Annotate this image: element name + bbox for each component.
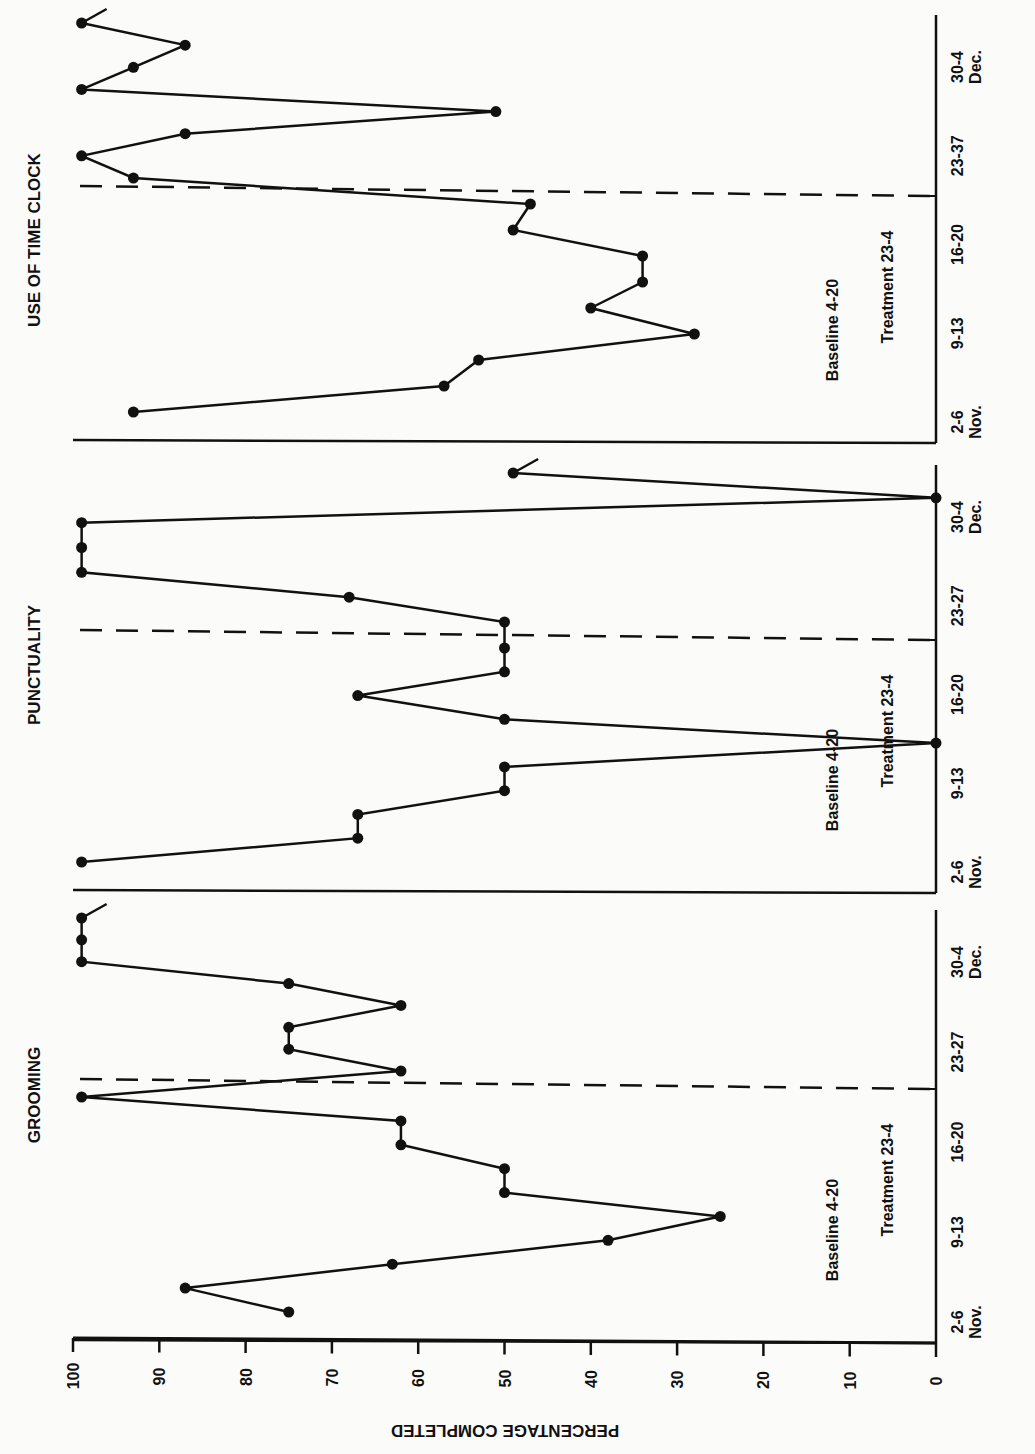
baseline-phase-label: Baseline 4-20 (824, 729, 841, 831)
multi-panel-line-chart: USE OF TIME CLOCK PUNCTUALITY GROOMING 1… (0, 0, 1035, 1454)
panel-grooming: 2-6Nov.9-1316-2023-2730-4Dec.Baseline 4-… (73, 904, 984, 1343)
value-tick-label: 60 (410, 1369, 427, 1387)
time-label-month: Nov. (967, 405, 984, 438)
data-point-marker (395, 1066, 406, 1077)
time-label: 9-13 (949, 1216, 966, 1248)
time-label-month: Nov. (967, 855, 984, 888)
data-point-marker (76, 542, 87, 553)
data-point-marker (283, 1307, 294, 1318)
value-tick-label: 10 (842, 1372, 859, 1390)
data-point-marker (128, 62, 139, 73)
time-label: 30-4 (949, 501, 966, 533)
time-label: 9-13 (949, 767, 966, 799)
data-point-marker (499, 1163, 510, 1174)
data-point-marker (76, 857, 87, 868)
value-tick-label: 70 (324, 1369, 341, 1387)
value-tick-label: 30 (669, 1371, 686, 1389)
treatment-phase-label: Treatment 23-4 (879, 1123, 896, 1236)
data-line (82, 23, 695, 412)
time-label: 16-20 (949, 224, 966, 265)
phase-divider-dashed (80, 186, 930, 196)
data-point-marker (585, 303, 596, 314)
data-point-marker (499, 714, 510, 725)
data-point-marker (931, 492, 942, 503)
time-label: 23-27 (949, 585, 966, 626)
value-tick-label: 80 (238, 1368, 255, 1386)
time-label: 2-6 (949, 410, 966, 433)
data-point-marker (283, 1022, 294, 1033)
time-label-month: Dec. (967, 50, 984, 84)
data-point-marker (499, 617, 510, 628)
data-point-marker (180, 128, 191, 139)
value-tick-label: 20 (755, 1371, 772, 1389)
data-point-marker (76, 517, 87, 528)
data-point-marker (931, 738, 942, 749)
data-point-marker (508, 225, 519, 236)
time-label: 9-13 (949, 317, 966, 349)
data-point-marker (387, 1259, 398, 1270)
treatment-phase-label: Treatment 23-4 (879, 230, 896, 343)
data-point-marker (76, 567, 87, 578)
data-point-marker (499, 1187, 510, 1198)
data-point-marker (180, 40, 191, 51)
panel-time-clock: 2-6Nov.9-1316-2023-3730-4Dec.Baseline 4-… (73, 9, 984, 443)
data-point-marker (490, 106, 501, 117)
data-point-marker (76, 18, 87, 29)
time-label: 16-20 (949, 1121, 966, 1162)
time-label: 23-37 (949, 135, 966, 176)
baseline-phase-label: Baseline 4-20 (824, 279, 841, 381)
data-point-marker (637, 277, 648, 288)
time-label: 23-27 (949, 1031, 966, 1072)
value-axis: 1009080706050403020100 PERCENTAGE COMPLE… (65, 1338, 945, 1440)
data-point-marker (76, 913, 87, 924)
data-point-marker (283, 1044, 294, 1055)
data-point-marker (352, 809, 363, 820)
time-label: 16-20 (949, 674, 966, 715)
data-point-marker (603, 1235, 614, 1246)
panel-title-time-clock: USE OF TIME CLOCK (25, 152, 44, 327)
data-point-marker (128, 173, 139, 184)
data-point-marker (352, 833, 363, 844)
data-point-marker (180, 1283, 191, 1294)
panel-title-grooming: GROOMING (25, 1047, 44, 1143)
data-line (82, 918, 721, 1312)
treatment-phase-label: Treatment 23-4 (879, 674, 896, 787)
data-point-marker (508, 468, 519, 479)
data-point-marker (499, 761, 510, 772)
data-point-marker (76, 956, 87, 967)
time-label-month: Dec. (967, 500, 984, 534)
value-tick-label: 90 (151, 1368, 168, 1386)
data-point-marker (637, 251, 648, 262)
data-point-marker (395, 1000, 406, 1011)
data-point-marker (395, 1115, 406, 1126)
time-label: 2-6 (949, 1310, 966, 1333)
value-axis-label: PERCENTAGE COMPLETED (391, 1421, 619, 1440)
value-tick-label: 50 (497, 1370, 514, 1388)
time-label-month: Dec. (967, 945, 984, 979)
panel-punctuality: 2-6Nov.9-1316-2023-2730-4Dec.Baseline 4-… (73, 459, 984, 893)
panel-baseline-edge (73, 440, 936, 443)
data-point-marker (499, 785, 510, 796)
value-tick-label: 100 (65, 1363, 82, 1390)
data-point-marker (76, 1092, 87, 1103)
data-point-marker (344, 592, 355, 603)
value-tick-label: 40 (583, 1370, 600, 1388)
data-point-marker (283, 978, 294, 989)
time-label: 2-6 (949, 860, 966, 883)
data-point-marker (525, 199, 536, 210)
panel-baseline-edge (73, 1340, 936, 1343)
data-point-marker (395, 1139, 406, 1150)
value-tick-label: 0 (928, 1376, 945, 1385)
data-point-marker (499, 666, 510, 677)
data-point-marker (473, 355, 484, 366)
baseline-phase-label: Baseline 4-20 (824, 1179, 841, 1281)
data-point-marker (128, 407, 139, 418)
time-label: 30-4 (949, 946, 966, 978)
time-label-month: Nov. (967, 1305, 984, 1338)
data-point-marker (76, 934, 87, 945)
data-point-marker (715, 1211, 726, 1222)
panel-title-punctuality: PUNCTUALITY (25, 604, 44, 725)
time-label: 30-4 (949, 51, 966, 83)
data-point-marker (689, 329, 700, 340)
data-point-marker (439, 381, 450, 392)
